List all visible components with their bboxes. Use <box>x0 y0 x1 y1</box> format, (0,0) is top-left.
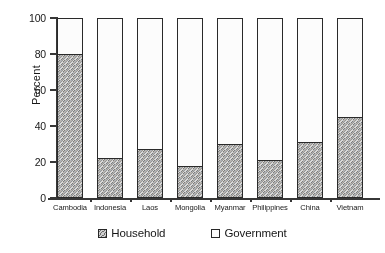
bar-segment-household <box>137 149 163 198</box>
bar-segment-household <box>57 54 83 198</box>
x-axis-tick <box>250 198 252 202</box>
x-axis-tick <box>290 198 292 202</box>
y-axis-tick <box>50 17 56 19</box>
y-axis-tick-label: 100 <box>20 13 46 23</box>
y-axis-tick-label: 0 <box>20 193 46 203</box>
bar-segment-household <box>337 117 363 198</box>
x-axis-tick <box>130 198 132 202</box>
x-axis-category-label: Vietnam <box>319 203 381 212</box>
y-axis-tick-label: 40 <box>20 121 46 131</box>
bar-group <box>257 18 283 198</box>
x-axis-tick <box>210 198 212 202</box>
bar-segment-household <box>177 166 203 198</box>
bar-group <box>97 18 123 198</box>
y-axis-tick-label: 80 <box>20 49 46 59</box>
y-axis-tick <box>50 161 56 163</box>
white-swatch <box>211 229 220 238</box>
x-axis-tick <box>90 198 92 202</box>
legend-label: Government <box>224 227 286 239</box>
y-axis-tick-label: 20 <box>20 157 46 167</box>
bar-group <box>297 18 323 198</box>
y-axis-tick-label: 60 <box>20 85 46 95</box>
bar-group <box>57 18 83 198</box>
bar-group <box>177 18 203 198</box>
stacked-bar-chart: Percent 020406080100 CambodiaIndonesiaLa… <box>0 0 385 253</box>
x-axis-tick <box>170 198 172 202</box>
legend-label: Household <box>111 227 165 239</box>
bar-group <box>217 18 243 198</box>
legend-item: Household <box>98 227 165 239</box>
hatched-gray-swatch <box>98 229 107 238</box>
bar-group <box>137 18 163 198</box>
legend-item: Government <box>211 227 286 239</box>
y-axis-tick <box>50 53 56 55</box>
bar-segment-household <box>257 160 283 198</box>
y-axis-tick <box>50 197 56 199</box>
y-axis-tick <box>50 125 56 127</box>
bar-group <box>337 18 363 198</box>
bar-segment-household <box>97 158 123 198</box>
chart-legend: HouseholdGovernment <box>0 224 385 242</box>
bar-segment-household <box>217 144 243 198</box>
bar-segment-household <box>297 142 323 198</box>
x-axis-tick <box>330 198 332 202</box>
y-axis-tick <box>50 89 56 91</box>
